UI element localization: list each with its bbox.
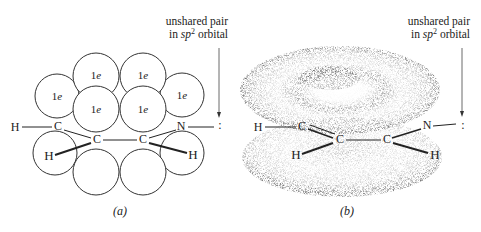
atom-h: H: [11, 120, 20, 134]
caption-b: (b): [340, 204, 354, 218]
atom-n: N: [423, 118, 432, 132]
atom-c: C: [383, 132, 391, 146]
pyridine-orbital-diagram: 1e 1e 1e 1e 1e 1e H C C C N H H :: [0, 0, 481, 232]
atom-n: N: [177, 119, 186, 133]
annotation-line-2: in sp2 orbital: [169, 27, 228, 41]
electron-label: 1e: [177, 89, 188, 101]
atom-c: C: [336, 132, 344, 146]
annotation-line-2: in sp2 orbital: [411, 27, 470, 41]
atom-h: H: [430, 147, 439, 162]
electron-label: 1e: [91, 69, 102, 81]
pi-cloud-upper: [240, 46, 440, 134]
lone-pair: :: [461, 118, 464, 132]
atom-c: C: [139, 132, 147, 146]
atom-h: H: [44, 148, 53, 163]
lower-lobe-2: [73, 149, 119, 195]
atom-h: H: [254, 120, 263, 134]
atom-c: C: [54, 119, 62, 133]
atom-c: C: [93, 132, 101, 146]
arrowhead-icon: [460, 111, 464, 117]
atom-h: H: [291, 147, 300, 162]
atom-h: H: [188, 147, 197, 162]
electron-label: 1e: [91, 103, 102, 115]
electron-label: 1e: [138, 103, 149, 115]
lower-lobe-5: [120, 149, 166, 195]
panel-b: H C C C N H H : unshared pair in sp2 orb…: [240, 15, 470, 218]
lower-lobe-1: [33, 131, 77, 175]
annotation-line-1: unshared pair: [166, 15, 228, 28]
panel-a: 1e 1e 1e 1e 1e 1e H C C C N H H :: [11, 15, 228, 218]
electron-label: 1e: [138, 69, 149, 81]
annotation-line-1: unshared pair: [408, 15, 470, 28]
atom-c: C: [298, 119, 306, 133]
caption-a: (a): [113, 204, 127, 218]
electron-label: 1e: [52, 90, 63, 102]
lone-pair: :: [218, 118, 221, 132]
